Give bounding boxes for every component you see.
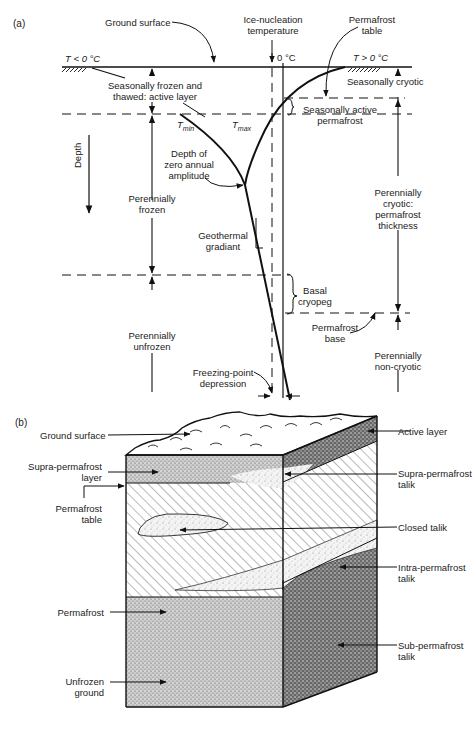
permafrost-b-label: Permafrost bbox=[40, 607, 104, 618]
perennially-cryotic-label: Perennially cryotic: permafrost thicknes… bbox=[368, 187, 428, 231]
intra-permafrost-talik-label: Intra-permafrost talik bbox=[398, 562, 466, 584]
panel-a-label: (a) bbox=[13, 18, 25, 29]
panel-b-block bbox=[84, 412, 410, 707]
seasonally-cryotic-label: Seasonally cryotic bbox=[347, 76, 424, 87]
zero-annual-amplitude-label: Depth of zero annual amplitude bbox=[160, 148, 218, 181]
depth-label: Depth bbox=[72, 143, 83, 168]
supra-permafrost-talik-label: Supra-permafrost talik bbox=[398, 468, 472, 490]
t-above-zero-label: T > 0 °C bbox=[353, 52, 388, 63]
permafrost-base-label: Permafrost base bbox=[305, 322, 365, 344]
ground-surface-b-label: Ground surface bbox=[40, 430, 105, 441]
supra-permafrost-layer-label: Supra-permafrost layer bbox=[20, 461, 102, 483]
zero-celsius-label: 0 °C bbox=[277, 52, 296, 63]
sub-permafrost-talik-label: Sub-permafrost talik bbox=[398, 640, 463, 662]
ground-surface-label: Ground surface bbox=[105, 17, 170, 28]
geothermal-gradient-label: Geothermal gradiant bbox=[193, 230, 253, 252]
t-below-zero-label: T < 0 °C bbox=[65, 53, 100, 64]
panel-b-label: (b) bbox=[15, 417, 27, 428]
permafrost-table-b-label: Permafrost table bbox=[40, 503, 102, 525]
unfrozen-ground-label: Unfrozen ground bbox=[40, 676, 104, 698]
t-max-label: Tmax bbox=[232, 119, 251, 134]
t-min-label: Tmin bbox=[177, 119, 194, 134]
freezing-point-depression-label: Freezing-point depression bbox=[188, 367, 258, 389]
active-layer-label: Seasonally frozen and thawed: active lay… bbox=[105, 80, 205, 102]
perennially-unfrozen-label: Perennially unfrozen bbox=[122, 330, 182, 352]
perennially-frozen-label: Perennially frozen bbox=[122, 193, 182, 215]
basal-cryopeg-label: Basal cryopeg bbox=[295, 285, 335, 307]
seasonally-active-permafrost-label: Seasonally active permafrost bbox=[295, 104, 385, 126]
ice-nucleation-label: Ice-nucleation temperature bbox=[240, 14, 306, 36]
closed-talik-label: Closed talik bbox=[398, 522, 447, 533]
permafrost-table-label: Permafrost table bbox=[342, 14, 402, 36]
perennially-non-cryotic-label: Perennially non-cryotic bbox=[368, 350, 428, 372]
active-layer-b-label: Active layer bbox=[398, 426, 447, 437]
